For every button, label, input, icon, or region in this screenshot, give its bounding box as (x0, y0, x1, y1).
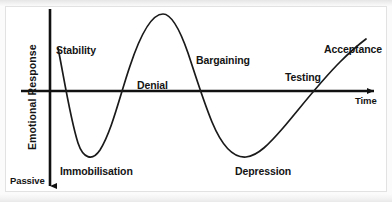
y-axis-label: Emotional Response (27, 42, 38, 152)
emotional-response-curve (58, 14, 366, 157)
stage-label-depression: Depression (235, 166, 291, 177)
stage-label-denial: Denial (137, 80, 168, 91)
stage-label-acceptance: Acceptance (324, 44, 382, 55)
x-axis-label-time: Time (355, 96, 377, 106)
stage-label-bargaining: Bargaining (196, 55, 250, 66)
stage-label-immobilisation: Immobilisation (60, 166, 133, 177)
stage-label-testing: Testing (285, 72, 321, 83)
y-axis-end-label-passive: Passive (10, 176, 45, 186)
plot-canvas (0, 0, 392, 202)
stage-label-stability: Stability (56, 45, 96, 56)
change-curve-figure: Emotional Response Passive Time Stabilit… (0, 0, 392, 202)
